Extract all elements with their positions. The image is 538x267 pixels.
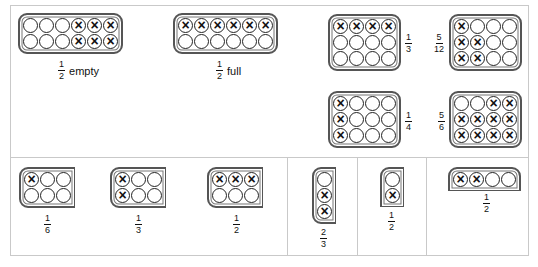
egg-cup-marked-icon	[228, 172, 243, 187]
egg-cup-empty-icon	[194, 34, 209, 49]
fraction: 23	[320, 228, 327, 249]
egg-tray-one-sixth	[19, 167, 75, 208]
egg-cup-empty-icon	[147, 172, 162, 187]
egg-cup-empty-icon	[381, 35, 396, 50]
egg-cup-marked-icon	[210, 18, 225, 33]
egg-cup-empty-icon	[365, 51, 380, 66]
label-half-full: 12 full	[216, 60, 241, 81]
egg-cup-empty-icon	[365, 35, 380, 50]
label-half-empty: 12 empty	[58, 60, 99, 81]
egg-cup-marked-icon	[71, 34, 86, 49]
label-two-thirds: 23	[320, 228, 327, 249]
egg-cup-empty-icon	[349, 96, 364, 111]
egg-cup-marked-icon	[103, 18, 118, 33]
egg-cup-empty-icon	[381, 51, 396, 66]
egg-cup-empty-icon	[381, 96, 396, 111]
egg-cup-marked-icon	[317, 188, 332, 203]
egg-cup-marked-icon	[349, 19, 364, 34]
fraction: 56	[438, 111, 445, 132]
divider-3	[426, 157, 427, 256]
egg-cup-empty-icon	[454, 96, 469, 111]
label-five-sixths: 56	[438, 111, 445, 132]
egg-cup-marked-icon	[178, 18, 193, 33]
egg-cup-marked-icon	[115, 188, 130, 203]
egg-cup-marked-icon	[226, 18, 241, 33]
egg-cup-marked-icon	[470, 51, 485, 66]
fraction: 16	[44, 214, 51, 235]
egg-cup-marked-icon	[454, 35, 469, 50]
egg-cup-marked-icon	[470, 112, 485, 127]
fraction: 12	[58, 60, 65, 81]
egg-tray-two-thirds-strip	[312, 167, 336, 224]
egg-cup-empty-icon	[147, 188, 162, 203]
egg-cup-marked-icon	[115, 172, 130, 187]
fraction: 512	[434, 33, 444, 54]
egg-cup-empty-icon	[55, 18, 70, 33]
egg-cup-empty-icon	[40, 188, 55, 203]
egg-cup-empty-icon	[226, 34, 241, 49]
egg-cup-empty-icon	[365, 128, 380, 143]
egg-cup-marked-icon	[502, 112, 517, 127]
egg-cup-marked-icon	[103, 34, 118, 49]
egg-cup-empty-icon	[486, 19, 501, 34]
label-one-third-b: 13	[135, 214, 142, 235]
egg-cup-empty-icon	[349, 128, 364, 143]
egg-cup-empty-icon	[381, 128, 396, 143]
egg-tray-half-full	[173, 13, 278, 54]
egg-cup-marked-icon	[469, 172, 484, 187]
egg-tray-one-third-half-carton	[110, 167, 166, 208]
egg-cup-empty-icon	[502, 35, 517, 50]
egg-cup-marked-icon	[242, 18, 257, 33]
divider-2	[357, 157, 358, 256]
egg-cup-marked-icon	[454, 51, 469, 66]
egg-cup-marked-icon	[385, 188, 400, 203]
fraction: 12	[483, 193, 490, 214]
egg-cup-marked-icon	[453, 172, 468, 187]
egg-cup-marked-icon	[333, 96, 348, 111]
egg-cup-empty-icon	[56, 172, 71, 187]
fraction: 12	[388, 211, 395, 232]
egg-cup-empty-icon	[365, 112, 380, 127]
egg-cup-marked-icon	[365, 19, 380, 34]
egg-cup-empty-icon	[502, 51, 517, 66]
egg-cup-empty-icon	[317, 172, 332, 187]
egg-cup-marked-icon	[470, 128, 485, 143]
label-one-third: 13	[405, 33, 412, 54]
egg-cup-empty-icon	[470, 19, 485, 34]
egg-cup-empty-icon	[381, 112, 396, 127]
label-one-half-b: 12	[233, 214, 240, 235]
egg-cup-marked-icon	[87, 18, 102, 33]
egg-cup-marked-icon	[87, 34, 102, 49]
fraction: 12	[233, 214, 240, 235]
egg-cup-marked-icon	[194, 18, 209, 33]
fraction: 13	[405, 33, 412, 54]
egg-cup-empty-icon	[486, 35, 501, 50]
egg-cup-marked-icon	[317, 204, 332, 219]
caption: empty	[69, 65, 99, 77]
egg-cup-marked-icon	[454, 112, 469, 127]
egg-tray-one-half-strip	[380, 167, 404, 207]
egg-cup-empty-icon	[244, 188, 259, 203]
label-one-half-d: 12	[483, 193, 490, 214]
egg-cup-marked-icon	[258, 18, 273, 33]
egg-cup-marked-icon	[454, 128, 469, 143]
egg-cup-empty-icon	[242, 34, 257, 49]
egg-cup-empty-icon	[40, 172, 55, 187]
label-one-quarter: 14	[405, 111, 412, 132]
egg-cup-marked-icon	[486, 128, 501, 143]
egg-cup-marked-icon	[502, 96, 517, 111]
egg-cup-empty-icon	[55, 34, 70, 49]
egg-cup-empty-icon	[24, 188, 39, 203]
egg-cup-marked-icon	[212, 172, 227, 187]
egg-cup-empty-icon	[349, 51, 364, 66]
egg-cup-empty-icon	[210, 34, 225, 49]
egg-cup-empty-icon	[258, 34, 273, 49]
egg-cup-empty-icon	[385, 172, 400, 187]
egg-cup-marked-icon	[502, 128, 517, 143]
egg-cup-empty-icon	[349, 35, 364, 50]
egg-cup-marked-icon	[486, 112, 501, 127]
egg-tray-half-empty	[18, 13, 123, 54]
egg-cup-marked-icon	[454, 19, 469, 34]
egg-cup-marked-icon	[24, 172, 39, 187]
label-five-twelfths: 512	[434, 33, 444, 54]
